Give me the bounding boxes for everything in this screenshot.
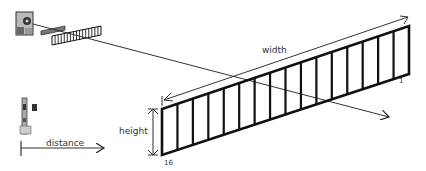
projector-icon (16, 12, 33, 35)
panel-label-first: 1 (399, 77, 403, 85)
projection-diagram: width height 1 16 distance (0, 0, 426, 171)
height-label: height (119, 126, 148, 136)
distance-label: distance (46, 138, 85, 148)
height-dimension-arrow (148, 109, 158, 155)
viewer-side-view-icon (20, 98, 37, 134)
panel-label-last: 16 (164, 159, 173, 167)
projection-ray (33, 24, 389, 117)
width-label: width (262, 45, 287, 55)
diagram-canvas: width height 1 16 distance (0, 0, 426, 171)
